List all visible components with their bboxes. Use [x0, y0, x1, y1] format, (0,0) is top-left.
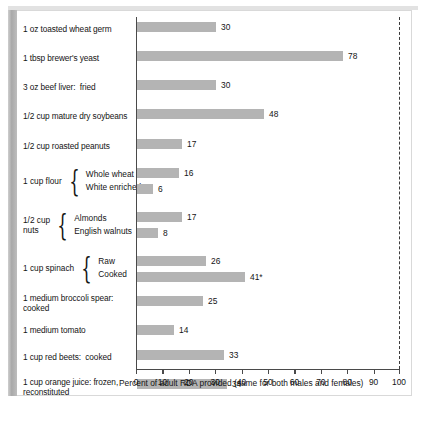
category-group-nuts: 1/2 cupnuts { Almonds English walnuts [23, 210, 132, 240]
category-label-nuts-english-walnuts: English walnuts [74, 225, 132, 238]
bar-nuts-almonds [137, 212, 182, 222]
category-label-peanuts: 1/2 cup roasted peanuts [23, 141, 110, 151]
bar-soybeans [137, 109, 264, 119]
x-tick-30 [215, 369, 216, 374]
category-label-flour-whole-wheat: Whole wheat [86, 168, 141, 181]
bar-peanuts [137, 139, 182, 149]
x-tick-10 [162, 369, 163, 374]
category-label-nuts-stem-line2: nuts [23, 225, 39, 235]
bar-value-flour-whole-wheat: 16 [184, 168, 193, 178]
plot-area: 30 78 30 48 17 16 6 17 8 26 41* 25 14 33… [136, 11, 411, 395]
x-tick-90 [374, 369, 375, 374]
bar-tomato [137, 325, 174, 335]
x-tick-label-100: 100 [392, 377, 406, 387]
scan-artifact-left-band [8, 10, 17, 396]
x-tick-100 [399, 369, 400, 374]
bar-spinach-cooked [137, 272, 245, 282]
category-label-spinach-raw: Raw [98, 255, 127, 268]
category-label-spinach-stem: 1 cup spinach [23, 263, 74, 273]
bar-value-flour-white-enriched: 6 [158, 184, 163, 194]
bar-value-spinach-cooked: 41* [250, 272, 263, 282]
category-label-flour-white-enriched: White enriched [86, 181, 141, 194]
category-label-soybeans: 1/2 cup mature dry soybeans [23, 111, 127, 121]
category-label-red-beets: 1 cup red beets: cooked [23, 352, 111, 362]
x-tick-80 [347, 369, 348, 374]
chart-figure: 1 oz toasted wheat germ 1 tbsp brewer's … [17, 10, 412, 396]
reference-line-100 [399, 17, 400, 369]
x-tick-20 [189, 369, 190, 374]
bar-spinach-raw [137, 256, 206, 266]
bar-value-red-beets: 33 [229, 350, 238, 360]
bar-value-brewers-yeast: 78 [348, 51, 357, 61]
bar-value-soybeans: 48 [269, 109, 278, 119]
bar-value-wheat-germ: 30 [221, 22, 230, 32]
category-label-beef-liver: 3 oz beef liver: fried [23, 82, 95, 92]
x-tick-0 [136, 369, 137, 374]
category-label-brewers-yeast: 1 tbsp brewer's yeast [23, 53, 99, 63]
category-label-column: 1 oz toasted wheat germ 1 tbsp brewer's … [17, 11, 136, 395]
category-label-broccoli: 1 medium broccoli spear: cooked [23, 293, 135, 313]
category-group-spinach-items: Raw Cooked [98, 255, 127, 281]
category-label-nuts-stem: 1/2 cupnuts [23, 215, 50, 236]
category-label-nuts-stem-line1: 1/2 cup [23, 215, 50, 225]
bar-wheat-germ [137, 22, 216, 32]
bar-broccoli [137, 296, 203, 306]
category-label-nuts-almonds: Almonds [74, 212, 132, 225]
category-label-tomato: 1 medium tomato [23, 325, 86, 335]
bar-value-tomato: 14 [179, 325, 188, 335]
bar-value-peanuts: 17 [187, 139, 196, 149]
x-axis-caption: Percent of adult RDA provided (same for … [119, 378, 363, 388]
category-label-flour-stem: 1 cup flour [23, 176, 62, 186]
x-tick-label-90: 90 [369, 377, 378, 387]
bar-value-beef-liver: 30 [221, 80, 230, 90]
category-group-flour: 1 cup flour { Whole wheat White enriched [23, 166, 141, 196]
bar-red-beets [137, 350, 224, 360]
bar-brewers-yeast [137, 51, 343, 61]
bar-flour-whole-wheat [137, 168, 179, 178]
bar-value-nuts-english-walnuts: 8 [163, 228, 168, 238]
bar-value-spinach-raw: 26 [211, 256, 220, 266]
x-tick-70 [321, 369, 322, 374]
category-label-spinach-cooked: Cooked [98, 268, 127, 281]
bar-beef-liver [137, 80, 216, 90]
bar-flour-white-enriched [137, 184, 153, 194]
x-tick-60 [294, 369, 295, 374]
category-group-flour-items: Whole wheat White enriched [86, 168, 141, 194]
bar-nuts-english-walnuts [137, 228, 158, 238]
category-group-spinach: 1 cup spinach { Raw Cooked [23, 253, 127, 283]
x-tick-40 [242, 369, 243, 374]
bar-value-broccoli: 25 [208, 296, 217, 306]
x-tick-50 [268, 369, 269, 374]
category-label-wheat-germ: 1 oz toasted wheat germ [23, 24, 112, 34]
category-group-nuts-items: Almonds English walnuts [74, 212, 132, 238]
bar-value-nuts-almonds: 17 [187, 212, 196, 222]
